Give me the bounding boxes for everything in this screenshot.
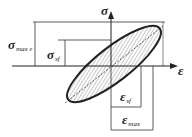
eps-sf-label: εsf — [120, 90, 131, 105]
eps-max-label: εmax — [122, 113, 140, 128]
sigma-sf-subscript: sf — [55, 55, 60, 63]
eps-max-subscript: max — [128, 120, 140, 128]
eps-sf-symbol: ε — [120, 89, 125, 104]
epsilon-axis-arrow-icon — [170, 63, 178, 69]
sigma-max-symbol: σ — [8, 37, 15, 52]
sigma-max-label: σmax ε — [8, 38, 32, 53]
hysteresis-diagram: σ ε σmax ε σsf εsf εmax — [0, 0, 192, 137]
sigma-sf-symbol: σ — [47, 47, 54, 62]
sigma-axis-arrow-icon — [108, 11, 114, 19]
epsilon-axis-label: ε — [178, 64, 183, 77]
sigma-axis-label: σ — [101, 4, 108, 17]
eps-sf-subscript: sf — [126, 97, 131, 105]
diagram-canvas — [0, 0, 192, 137]
eps-max-symbol: ε — [122, 112, 127, 127]
sigma-max-subscript: max ε — [16, 45, 32, 53]
sigma-sf-label: σsf — [47, 48, 60, 63]
